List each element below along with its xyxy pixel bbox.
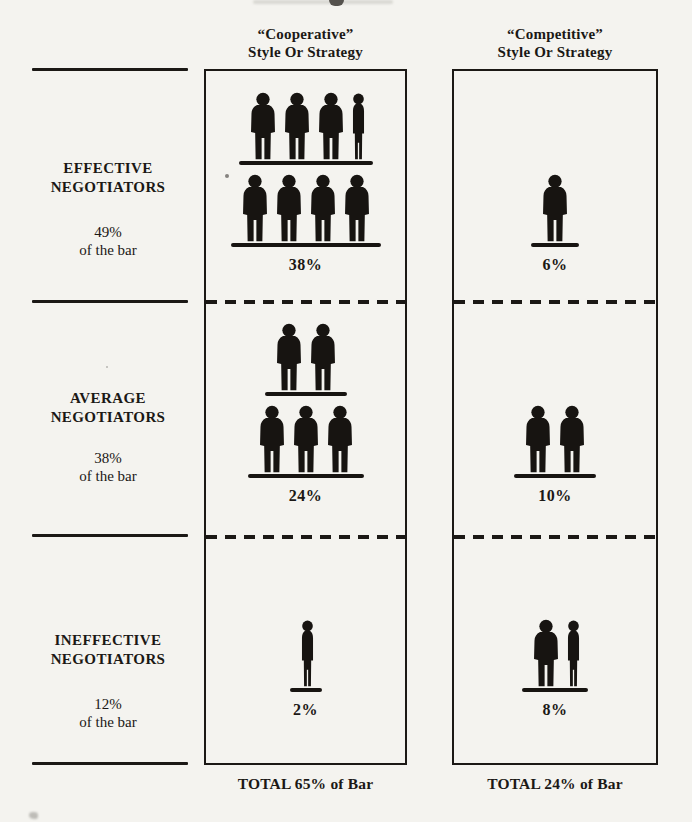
partial-person-icon [566, 619, 581, 689]
pictogram-row [265, 323, 347, 396]
row-separator-rule [32, 300, 188, 303]
row-label-average: AVERAGE NEGOTIATORS [20, 389, 196, 427]
row-share-caption: of the bar [20, 713, 196, 731]
figure-baseline [231, 243, 381, 247]
cropped-caption-letter-artifact [329, 0, 344, 6]
competitive-header-line2: Style Or Strategy [452, 43, 658, 61]
cropped-caption-artifact [253, 0, 393, 4]
cell-effective-cooperative: 38% [206, 71, 405, 300]
pictogram-row [231, 174, 381, 247]
person-icon [238, 174, 272, 244]
cooperative-column-box: 38% 24% 2% [204, 69, 407, 765]
cell-effective-competitive: 6% [454, 71, 656, 300]
pictogram-row [248, 405, 364, 478]
cell-percent-label: 6% [543, 256, 568, 274]
scanned-pictograph-page: “Cooperative” Style Or Strategy “Competi… [0, 0, 692, 822]
cell-percent-label: 2% [293, 701, 318, 719]
figure-baseline [248, 474, 364, 478]
figure-strip [231, 174, 381, 244]
row-label-line1: AVERAGE [20, 389, 196, 408]
competitive-header-line1: “Competitive” [452, 25, 658, 43]
cell-percent-label: 38% [289, 256, 323, 274]
cell-percent-label: 8% [543, 701, 568, 719]
row-share-value: 38% [20, 449, 196, 467]
person-icon [529, 619, 563, 689]
person-icon [314, 92, 348, 162]
figure-baseline [290, 688, 322, 692]
figure-baseline [531, 243, 579, 247]
pictogram-group [522, 619, 588, 692]
person-icon [272, 323, 306, 393]
person-icon [555, 405, 589, 475]
row-share-caption: of the bar [20, 241, 196, 259]
row-share-effective: 49% of the bar [20, 223, 196, 259]
person-icon [323, 405, 357, 475]
cell-average-competitive: 10% [454, 304, 656, 535]
row-label-line1: EFFECTIVE [20, 159, 196, 178]
pictogram-group [231, 92, 381, 247]
figure-baseline [522, 688, 588, 692]
pictogram-group [290, 619, 322, 692]
figure-baseline [265, 392, 347, 396]
row-separator-rule [32, 762, 188, 765]
figure-baseline [514, 474, 596, 478]
row-label-line2: NEGOTIATORS [20, 178, 196, 197]
figure-strip [265, 323, 347, 393]
pictogram-group [248, 323, 364, 478]
figure-strip [522, 619, 588, 689]
row-separator-rule [32, 68, 188, 71]
figure-baseline [239, 161, 373, 165]
person-icon [538, 174, 572, 244]
row-share-value: 49% [20, 223, 196, 241]
row-label-line1: INEFFECTIVE [20, 631, 196, 650]
cell-percent-label: 24% [289, 487, 323, 505]
row-label-line2: NEGOTIATORS [20, 650, 196, 669]
row-label-ineffective: INEFFECTIVE NEGOTIATORS [20, 631, 196, 669]
person-icon [306, 174, 340, 244]
row-label-line2: NEGOTIATORS [20, 408, 196, 427]
row-share-caption: of the bar [20, 467, 196, 485]
competitive-column-header: “Competitive” Style Or Strategy [452, 25, 658, 61]
figure-strip [514, 405, 596, 475]
cooperative-column-header: “Cooperative” Style Or Strategy [204, 25, 407, 61]
row-label-effective: EFFECTIVE NEGOTIATORS [20, 159, 196, 197]
cell-percent-label: 10% [538, 487, 572, 505]
cooperative-header-line1: “Cooperative” [204, 25, 407, 43]
row-share-average: 38% of the bar [20, 449, 196, 485]
cooperative-total-label: TOTAL 65% of Bar [204, 775, 407, 793]
footnote-mark-artifact [29, 812, 38, 819]
row-share-ineffective: 12% of the bar [20, 695, 196, 731]
person-icon [306, 323, 340, 393]
cell-average-cooperative: 24% [206, 304, 405, 535]
figure-strip [531, 174, 579, 244]
competitive-column-box: 6% 10% 8% [452, 69, 658, 765]
person-icon [340, 174, 374, 244]
pictogram-group [531, 174, 579, 247]
pictogram-row [514, 405, 596, 478]
person-icon [280, 92, 314, 162]
row-separator-rule [32, 534, 188, 537]
pictogram-row [290, 619, 322, 692]
partial-person-icon [300, 619, 315, 689]
figure-strip [239, 92, 373, 162]
person-icon [272, 174, 306, 244]
scan-speck [106, 366, 108, 368]
pictogram-row [531, 174, 579, 247]
competitive-total-label: TOTAL 24% of Bar [452, 775, 658, 793]
partial-person-icon [351, 92, 366, 162]
row-share-value: 12% [20, 695, 196, 713]
person-icon [521, 405, 555, 475]
pictogram-row [239, 92, 373, 165]
pictogram-row [522, 619, 588, 692]
person-icon [255, 405, 289, 475]
pictogram-group [514, 405, 596, 478]
cooperative-header-line2: Style Or Strategy [204, 43, 407, 61]
figure-strip [248, 405, 364, 475]
person-icon [246, 92, 280, 162]
cell-ineffective-competitive: 8% [454, 539, 656, 763]
cell-ineffective-cooperative: 2% [206, 539, 405, 763]
person-icon [289, 405, 323, 475]
figure-strip [290, 619, 322, 689]
